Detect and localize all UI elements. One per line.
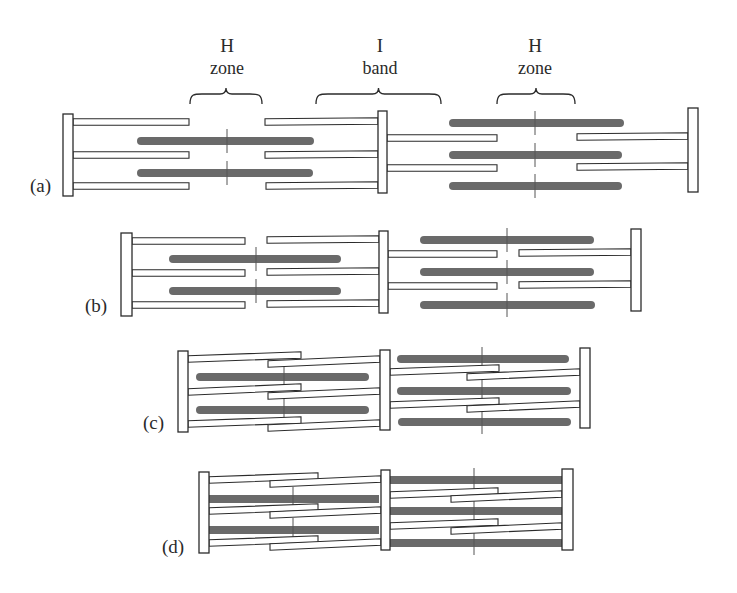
z-line bbox=[199, 472, 209, 553]
curly-brace-icon bbox=[316, 88, 441, 104]
thin-filament bbox=[265, 151, 378, 158]
annotation-letter: H bbox=[220, 35, 234, 56]
z-line bbox=[380, 350, 390, 430]
panel-c: (c) bbox=[143, 347, 590, 434]
z-line bbox=[121, 233, 132, 316]
thin-filament bbox=[388, 283, 497, 289]
annotation-word: zone bbox=[210, 58, 244, 78]
panel-label: (b) bbox=[85, 295, 107, 317]
z-line bbox=[378, 111, 387, 193]
thick-filament bbox=[449, 174, 622, 198]
thin-filament bbox=[519, 281, 631, 288]
curly-brace-icon bbox=[497, 88, 575, 104]
panel-label: (d) bbox=[162, 536, 184, 558]
thick-filament bbox=[169, 279, 341, 303]
thick-filament bbox=[420, 228, 594, 252]
thick-filament bbox=[420, 260, 594, 284]
z-line bbox=[178, 351, 188, 432]
panel-d: (d) bbox=[162, 468, 573, 558]
thin-filament bbox=[519, 249, 631, 256]
panel-b: (b) bbox=[85, 228, 641, 317]
panel-a: (a) bbox=[30, 108, 698, 198]
sarcomere-panels: (a)(b)(c)(d) bbox=[30, 108, 698, 558]
thick-filament bbox=[169, 247, 341, 271]
band-annotations: HzoneIbandHzone bbox=[190, 35, 575, 104]
thick-filament bbox=[449, 111, 624, 135]
h-zone-right-annotation: Hzone bbox=[497, 35, 575, 104]
thick-filament bbox=[390, 531, 562, 555]
annotation-letter: I bbox=[377, 35, 383, 56]
z-line bbox=[63, 114, 73, 196]
thin-filament bbox=[577, 133, 688, 140]
thin-filament bbox=[132, 302, 245, 308]
thin-filament bbox=[266, 182, 378, 189]
annotation-letter: H bbox=[528, 35, 542, 56]
thin-filament bbox=[267, 300, 379, 307]
thin-filament bbox=[267, 268, 379, 275]
thin-filament bbox=[387, 135, 497, 141]
h-zone-left-annotation: Hzone bbox=[190, 35, 262, 104]
thick-filament bbox=[137, 161, 313, 185]
thick-filament bbox=[420, 293, 595, 317]
z-line bbox=[580, 348, 590, 428]
thin-filament bbox=[265, 118, 378, 125]
thin-filament bbox=[577, 163, 688, 170]
thin-filament bbox=[73, 183, 189, 189]
thin-filament bbox=[387, 165, 497, 171]
z-line bbox=[381, 470, 390, 550]
z-line bbox=[688, 108, 698, 192]
thin-filament bbox=[132, 270, 245, 276]
thin-filament bbox=[388, 251, 497, 257]
thin-filament bbox=[73, 119, 189, 125]
curly-brace-icon bbox=[190, 88, 262, 104]
thin-filament bbox=[73, 152, 189, 158]
panel-label: (a) bbox=[30, 175, 51, 197]
thick-filament bbox=[398, 410, 571, 434]
z-line bbox=[379, 231, 388, 313]
z-line bbox=[631, 229, 641, 311]
thick-filament bbox=[137, 129, 314, 153]
thin-filament bbox=[132, 238, 245, 244]
thin-filament bbox=[267, 236, 379, 243]
annotation-word: band bbox=[363, 58, 398, 78]
sarcomere-contraction-diagram: HzoneIbandHzone (a)(b)(c)(d) bbox=[0, 0, 737, 593]
i-band-annotation: Iband bbox=[316, 35, 441, 104]
panel-label: (c) bbox=[143, 412, 164, 434]
z-line bbox=[562, 469, 573, 550]
annotation-word: zone bbox=[518, 58, 552, 78]
